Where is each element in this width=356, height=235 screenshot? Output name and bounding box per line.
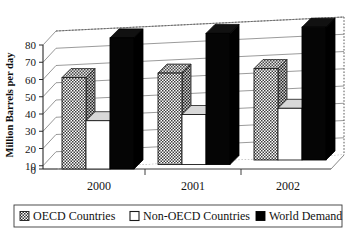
legend-label-non-oecd: Non-OECD Countries bbox=[143, 209, 250, 223]
bar-world-demand-2001[interactable] bbox=[206, 24, 239, 164]
legend-label-world-demand: World Demand bbox=[269, 209, 342, 223]
bar-side-face bbox=[230, 24, 239, 164]
bar-front-face bbox=[86, 121, 110, 169]
bar-front-face bbox=[206, 33, 230, 164]
y-tick-label-70: 70 bbox=[25, 56, 37, 68]
x-label-2001: 2001 bbox=[181, 179, 205, 193]
y-tick-label-80: 80 bbox=[25, 39, 37, 51]
checker-swatch-icon bbox=[20, 212, 29, 221]
x-label-2002: 2002 bbox=[276, 179, 300, 193]
y-axis-title: Million Barrels per day bbox=[4, 52, 15, 158]
chart-container: 80 70 60 50 40 30 20 10 0 Million Barrel… bbox=[0, 0, 356, 235]
y-tick-label-40: 40 bbox=[25, 108, 37, 120]
bar-front-face bbox=[62, 78, 86, 169]
bar-chart-svg: 80 70 60 50 40 30 20 10 0 Million Barrel… bbox=[0, 0, 356, 235]
y-tick-label-20: 20 bbox=[25, 143, 37, 155]
bar-side-face bbox=[134, 29, 143, 169]
bar-front-face bbox=[110, 38, 134, 169]
legend-label-oecd: OECD Countries bbox=[33, 209, 116, 223]
bar-front-face bbox=[182, 115, 206, 165]
legend: OECD Countries Non-OECD Countries World … bbox=[14, 205, 342, 227]
bar-front-face bbox=[158, 73, 182, 164]
empty-swatch-icon bbox=[130, 212, 139, 221]
legend-item-non-oecd-countries[interactable]: Non-OECD Countries bbox=[130, 209, 250, 223]
x-label-2000: 2000 bbox=[87, 179, 111, 193]
legend-item-oecd-countries[interactable]: OECD Countries bbox=[20, 209, 116, 223]
bar-front-face bbox=[278, 108, 302, 160]
y-tick-label-60: 60 bbox=[25, 74, 37, 86]
y-tick-label-30: 30 bbox=[25, 125, 37, 137]
bar-side-face bbox=[326, 18, 335, 160]
y-tick-label-50: 50 bbox=[25, 91, 37, 103]
legend-item-world-demand[interactable]: World Demand bbox=[256, 209, 342, 223]
bar-world-demand-2002[interactable] bbox=[302, 18, 335, 160]
y-tick-label-0: 0 bbox=[31, 164, 37, 176]
black-swatch-icon bbox=[256, 212, 265, 221]
bar-world-demand-2000[interactable] bbox=[110, 29, 143, 169]
bar-front-face bbox=[254, 69, 278, 160]
bar-front-face bbox=[302, 27, 326, 160]
